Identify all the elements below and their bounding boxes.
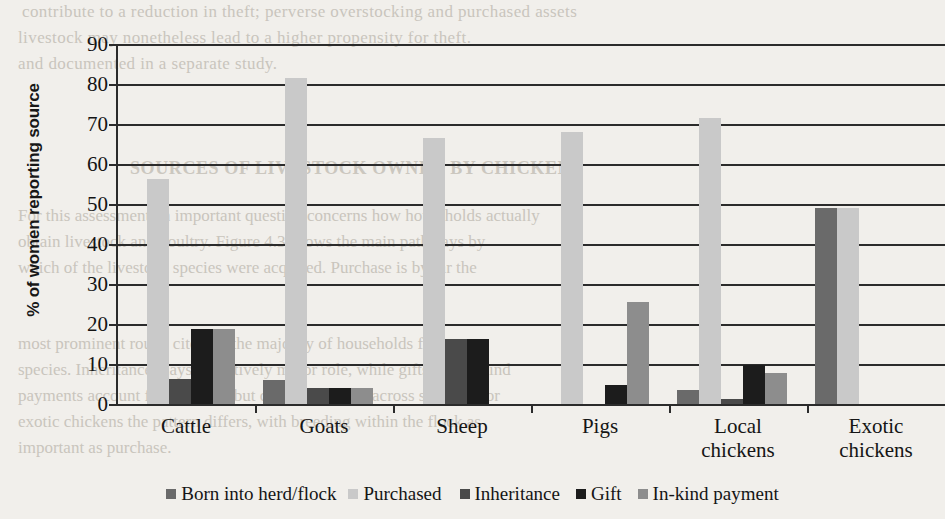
y-axis-tick-label: 50 bbox=[62, 192, 108, 217]
y-axis-tick-label: 90 bbox=[62, 32, 108, 57]
y-axis-tick-mark bbox=[109, 244, 117, 246]
gridline bbox=[117, 124, 945, 126]
y-axis-tick-mark bbox=[109, 84, 117, 86]
bar bbox=[307, 388, 329, 404]
bar bbox=[467, 339, 489, 404]
chart-legend: Born into herd/flockPurchasedInheritance… bbox=[0, 483, 945, 505]
bar bbox=[815, 208, 837, 404]
x-axis-tick-mark bbox=[255, 404, 257, 413]
y-axis-tick-mark bbox=[109, 364, 117, 366]
y-axis-tick-label: 70 bbox=[62, 112, 108, 137]
legend-label: In-kind payment bbox=[653, 483, 779, 505]
bar bbox=[147, 179, 169, 404]
y-axis-tick-mark bbox=[109, 44, 117, 46]
y-axis-tick-mark bbox=[109, 324, 117, 326]
bar bbox=[677, 390, 699, 404]
y-axis-tick-mark bbox=[109, 164, 117, 166]
x-axis-tick-mark bbox=[807, 404, 809, 413]
bar bbox=[351, 388, 373, 404]
legend-label: Gift bbox=[591, 483, 622, 505]
legend-label: Born into herd/flock bbox=[181, 483, 336, 505]
bar bbox=[445, 339, 467, 404]
y-axis-tick-mark bbox=[109, 404, 117, 406]
bar bbox=[263, 380, 285, 404]
y-axis-line bbox=[116, 44, 118, 404]
legend-swatch-icon bbox=[576, 489, 586, 499]
bar bbox=[721, 399, 743, 404]
y-axis-title: % of women reporting source bbox=[24, 70, 44, 330]
y-axis-tick-label: 80 bbox=[62, 72, 108, 97]
legend-swatch-icon bbox=[166, 489, 176, 499]
legend-item[interactable]: Purchased bbox=[348, 483, 459, 505]
plot-area bbox=[117, 44, 945, 404]
x-axis-category-label: Cattle bbox=[117, 415, 255, 439]
x-axis-category-label-line: chickens bbox=[669, 439, 807, 463]
gridline bbox=[117, 84, 945, 86]
gridline bbox=[117, 164, 945, 166]
y-axis-tick-label: 10 bbox=[62, 352, 108, 377]
bar bbox=[627, 302, 649, 404]
x-axis-category-label-line: Goats bbox=[255, 415, 393, 439]
y-axis-tick-mark bbox=[109, 124, 117, 126]
y-axis-tick-mark bbox=[109, 284, 117, 286]
gridline bbox=[117, 44, 945, 46]
x-axis-tick-mark bbox=[531, 404, 533, 413]
x-axis-category-label-line: Local bbox=[669, 415, 807, 439]
y-axis-tick-label: 0 bbox=[62, 392, 108, 417]
bar bbox=[285, 78, 307, 404]
bar bbox=[191, 329, 213, 404]
legend-item[interactable]: Born into herd/flock bbox=[166, 483, 348, 505]
x-axis-category-label-line: Exotic bbox=[807, 415, 945, 439]
bar bbox=[561, 132, 583, 404]
x-axis-tick-mark bbox=[393, 404, 395, 413]
legend-swatch-icon bbox=[348, 489, 358, 499]
x-axis-category-label: Goats bbox=[255, 415, 393, 439]
x-axis-category-label-line: Pigs bbox=[531, 415, 669, 439]
y-axis-tick-labels: 9080706050403020100 bbox=[62, 0, 108, 519]
x-axis-category-label-line: Sheep bbox=[393, 415, 531, 439]
y-axis-tick-label: 20 bbox=[62, 312, 108, 337]
x-axis-category-label: Localchickens bbox=[669, 415, 807, 462]
legend-label: Inheritance bbox=[475, 483, 560, 505]
x-axis-category-label: Sheep bbox=[393, 415, 531, 439]
bar bbox=[423, 138, 445, 404]
gridline bbox=[117, 204, 945, 206]
bar bbox=[837, 208, 859, 404]
x-axis-category-label: Pigs bbox=[531, 415, 669, 439]
y-axis-tick-label: 30 bbox=[62, 272, 108, 297]
bar-chart: % of women reporting source 908070605040… bbox=[0, 0, 945, 519]
bar bbox=[605, 385, 627, 404]
legend-label: Purchased bbox=[363, 483, 441, 505]
x-axis-category-label-line: Cattle bbox=[117, 415, 255, 439]
bar bbox=[213, 329, 235, 404]
bar bbox=[743, 365, 765, 404]
bar bbox=[765, 373, 787, 404]
x-axis-category-label: Exoticchickens bbox=[807, 415, 945, 462]
legend-item[interactable]: Gift bbox=[576, 483, 638, 505]
y-axis-tick-mark bbox=[109, 204, 117, 206]
x-axis-tick-mark bbox=[669, 404, 671, 413]
bar bbox=[329, 388, 351, 404]
scanned-page: contribute to a reduction in theft; perv… bbox=[0, 0, 945, 519]
legend-swatch-icon bbox=[638, 489, 648, 499]
x-axis-category-label-line: chickens bbox=[807, 439, 945, 463]
y-axis-tick-label: 40 bbox=[62, 232, 108, 257]
y-axis-tick-label: 60 bbox=[62, 152, 108, 177]
bar bbox=[169, 379, 191, 404]
legend-item[interactable]: Inheritance bbox=[460, 483, 576, 505]
bar bbox=[699, 118, 721, 404]
legend-item[interactable]: In-kind payment bbox=[638, 483, 779, 505]
legend-swatch-icon bbox=[460, 489, 470, 499]
